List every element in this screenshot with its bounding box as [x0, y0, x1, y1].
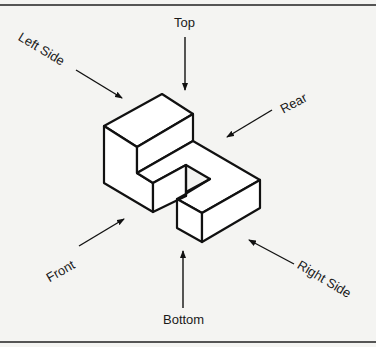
isometric-object — [104, 94, 260, 242]
arrow-front — [79, 219, 124, 246]
arrow-right-side — [249, 240, 294, 264]
label-bottom: Bottom — [163, 313, 204, 326]
arrow-left-side — [76, 70, 122, 98]
arrow-rear — [227, 110, 272, 137]
label-top: Top — [174, 16, 195, 29]
